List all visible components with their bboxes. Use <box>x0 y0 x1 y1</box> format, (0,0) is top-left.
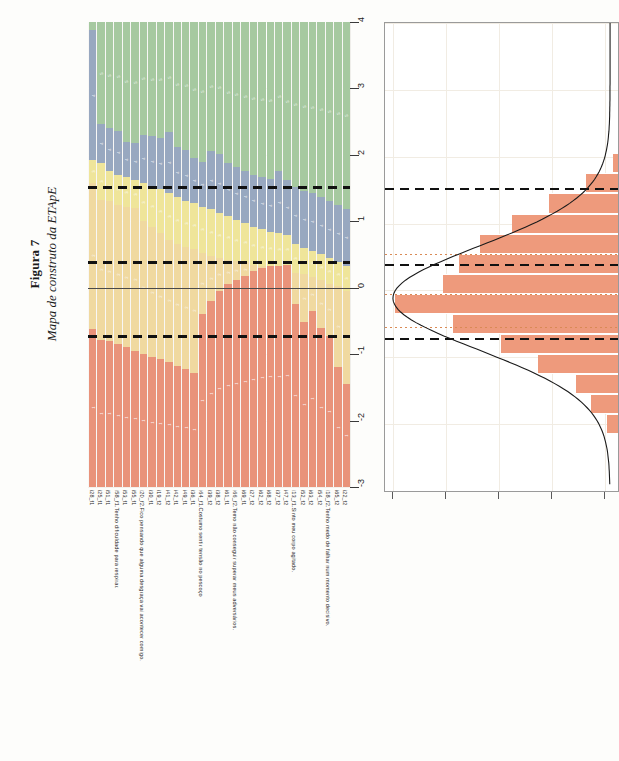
segment-value-label: 4 <box>158 162 163 164</box>
bar-segment-cat-1: 1 <box>224 284 231 487</box>
y-axis-tick <box>350 487 359 488</box>
bar-column: 54321 <box>156 22 164 487</box>
segment-value-label: 2 <box>302 297 307 299</box>
segment-value-label: 5 <box>132 81 137 83</box>
segment-value-label: 5 <box>217 87 222 89</box>
y-axis-tick-label: 3 <box>356 83 366 88</box>
bar-segment-cat-3: 3 <box>190 203 197 250</box>
segment-value-label: 3 <box>158 210 163 212</box>
zero-reference-line <box>88 288 350 289</box>
bar-segment-cat-4: 4 <box>140 135 147 183</box>
bar-segment-cat-2: 2 <box>300 274 307 322</box>
segment-value-label: 4 <box>318 225 323 227</box>
segment-value-label: 3 <box>116 189 121 191</box>
bar-segment-cat-5 <box>89 22 96 30</box>
segment-value-label: 4 <box>90 94 95 96</box>
y-axis-tick-label: -2 <box>356 413 366 421</box>
segment-value-label: 4 <box>175 171 180 173</box>
segment-value-label: 3 <box>327 270 332 272</box>
bar-segment-cat-3: 3 <box>224 216 231 260</box>
bar-segment-cat-5: 5 <box>174 22 181 147</box>
y-axis-tick <box>350 22 359 23</box>
segment-value-label: 2 <box>327 308 332 310</box>
bar-column: 54321 <box>122 22 130 487</box>
bar-column: 54321 <box>215 22 223 487</box>
bar-segment-cat-1: 1 <box>140 354 147 487</box>
bar-column: 54321 <box>198 22 206 487</box>
bar-segment-cat-4: 4 <box>224 163 231 216</box>
item-label-i37_f2: i37_f2 <box>275 490 281 505</box>
bar-segment-cat-3: 3 <box>250 227 257 266</box>
bar-segment-cat-1: 1 <box>283 265 290 487</box>
y-axis-tick-label: 0 <box>356 283 366 288</box>
bar-column: 5431 <box>282 22 290 487</box>
bar-segment-cat-1: 1 <box>326 336 333 487</box>
bar-segment-cat-1: 1 <box>207 301 214 487</box>
density-curve-path <box>393 23 610 484</box>
segment-value-label: 3 <box>259 247 264 249</box>
segment-value-label: 2 <box>90 255 95 257</box>
bar-segment-cat-2: 2 <box>309 277 316 311</box>
bar-segment-cat-2: 2 <box>89 183 96 329</box>
item-label-list: i28_f1i25_f1i51_f1i58_f1.Tenho dificulda… <box>88 490 350 750</box>
item-label-i62_f2: i62_f2 <box>258 490 264 505</box>
segment-value-label: 1 <box>116 414 121 416</box>
segment-value-label: 5 <box>200 91 205 93</box>
bar-segment-cat-4: 4 <box>199 162 206 207</box>
bar-segment-cat-4: 4 <box>326 201 333 258</box>
bar-segment-cat-2: 2 <box>106 201 113 341</box>
item-label-i27_f2: i27_f2 <box>249 490 255 505</box>
bar-segment-cat-3: 3 <box>283 235 290 265</box>
bar-segment-cat-4: 4 <box>334 205 341 262</box>
bar-segment-cat-5: 5 <box>317 22 324 197</box>
bar-segment-cat-5: 5 <box>182 22 189 150</box>
bar-segment-cat-4: 4 <box>343 209 350 266</box>
segment-value-label: 5 <box>318 109 323 111</box>
bar-segment-cat-5: 5 <box>148 22 155 136</box>
segment-value-label: 1 <box>276 375 281 377</box>
segment-value-label: 2 <box>242 268 247 270</box>
bar-segment-cat-5: 5 <box>106 22 113 128</box>
item-label-i25_f1: i25_f1 <box>97 490 103 505</box>
bar-segment-cat-5: 5 <box>157 22 164 138</box>
bar-column: 54321 <box>232 22 240 487</box>
bar-segment-cat-1: 1 <box>250 271 257 487</box>
segment-value-label: 4 <box>99 142 104 144</box>
segment-value-label: 5 <box>310 107 315 109</box>
segment-value-label: 1 <box>166 423 171 425</box>
bar-column: 54321 <box>113 22 121 487</box>
bar-segment-cat-1: 1 <box>174 366 181 487</box>
bar-segment-cat-4: 4 <box>317 197 324 254</box>
y-axis-tick-label: -1 <box>356 346 366 354</box>
segment-value-label: 3 <box>293 257 298 259</box>
segment-value-label: 4 <box>310 221 315 223</box>
bar-segment-cat-4: 4 <box>309 193 316 250</box>
segment-value-label: 2 <box>234 269 239 271</box>
segment-value-label: 4 <box>217 182 222 184</box>
bar-segment-cat-1: 1 <box>106 341 113 487</box>
bar-segment-cat-5: 5 <box>97 22 104 124</box>
bar-segment-cat-1: 1 <box>233 280 240 487</box>
bar-segment-cat-5: 5 <box>283 22 290 180</box>
item-label-i42_f1: i42_f1 <box>173 490 179 505</box>
segment-value-label: 4 <box>116 152 121 154</box>
segment-value-label: 3 <box>285 249 290 251</box>
segment-value-label: 1 <box>242 380 247 382</box>
bar-column: 5431 <box>274 22 282 487</box>
segment-value-label: 1 <box>124 416 129 418</box>
segment-value-label: 4 <box>107 148 112 150</box>
figure-page: Figura 7 Mapa de construto da ETApE 4321… <box>0 0 619 761</box>
segment-value-label: 2 <box>132 278 137 280</box>
item-label-i18_f2: i18_f2.Tenho medo de falhar num momento … <box>325 490 331 626</box>
segment-value-label: 4 <box>183 174 188 176</box>
bar-segment-cat-3: 3 <box>123 177 130 206</box>
item-label-i47_f2: i47_f2 <box>283 490 289 505</box>
bar-segment-cat-3: 3 <box>97 163 104 200</box>
bar-segment-cat-3: 3 <box>174 197 181 244</box>
bar-segment-cat-2: 2 <box>148 227 155 358</box>
bar-segment-cat-4: 4 <box>165 132 172 193</box>
segment-value-label: 5 <box>276 95 281 97</box>
segment-value-label: 2 <box>107 270 112 272</box>
segment-value-label: 3 <box>166 215 171 217</box>
bar-column: 54321 <box>206 22 214 487</box>
